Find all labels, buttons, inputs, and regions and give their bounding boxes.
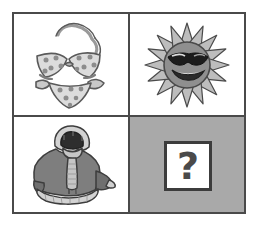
- matrix-cell-top-left[interactable]: Polka dot bikini swimsuit: [14, 14, 130, 117]
- bikini-icon: [14, 14, 128, 115]
- question-mark-box[interactable]: ?: [164, 141, 212, 191]
- matrix-cell-bottom-left[interactable]: Winter parka coat with hood and scarf: [14, 117, 130, 212]
- analogy-matrix-image: Seasonal clothing analogy matrix Polka d…: [0, 0, 256, 226]
- question-mark-icon: ?: [177, 147, 199, 185]
- smiling-sun-with-sunglasses-icon: [130, 14, 244, 115]
- winter-parka-coat-icon: [14, 117, 128, 212]
- matrix-cell-top-right[interactable]: Cartoon sun wearing sunglasses: [130, 14, 244, 117]
- matrix-cell-bottom-right[interactable]: Unknown answer ?: [130, 117, 244, 212]
- matrix-grid: Polka dot bikini swimsuit: [12, 12, 246, 214]
